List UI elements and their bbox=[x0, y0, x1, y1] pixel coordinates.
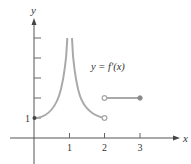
y-axis-label: y bbox=[30, 4, 36, 16]
x-axis-label: x bbox=[182, 132, 188, 144]
x-tick-label-2: 2 bbox=[102, 142, 107, 153]
function-label: y = f′(x) bbox=[90, 61, 125, 73]
open-dot-2-2 bbox=[102, 96, 107, 101]
closed-dot-0-1 bbox=[33, 116, 37, 120]
x-axis-arrow-icon bbox=[173, 136, 180, 141]
closed-dot-3-2 bbox=[138, 96, 142, 100]
y-axis-arrow-icon bbox=[32, 18, 37, 25]
x-tick-label-1: 1 bbox=[67, 142, 72, 153]
open-dot-2-1 bbox=[102, 116, 107, 121]
curve-right-branch bbox=[72, 38, 105, 118]
x-tick-label-3: 3 bbox=[138, 142, 143, 153]
derivative-graph: x y 1 2 3 1 y = f′(x) bbox=[0, 0, 191, 164]
y-tick-label-1: 1 bbox=[25, 113, 30, 124]
